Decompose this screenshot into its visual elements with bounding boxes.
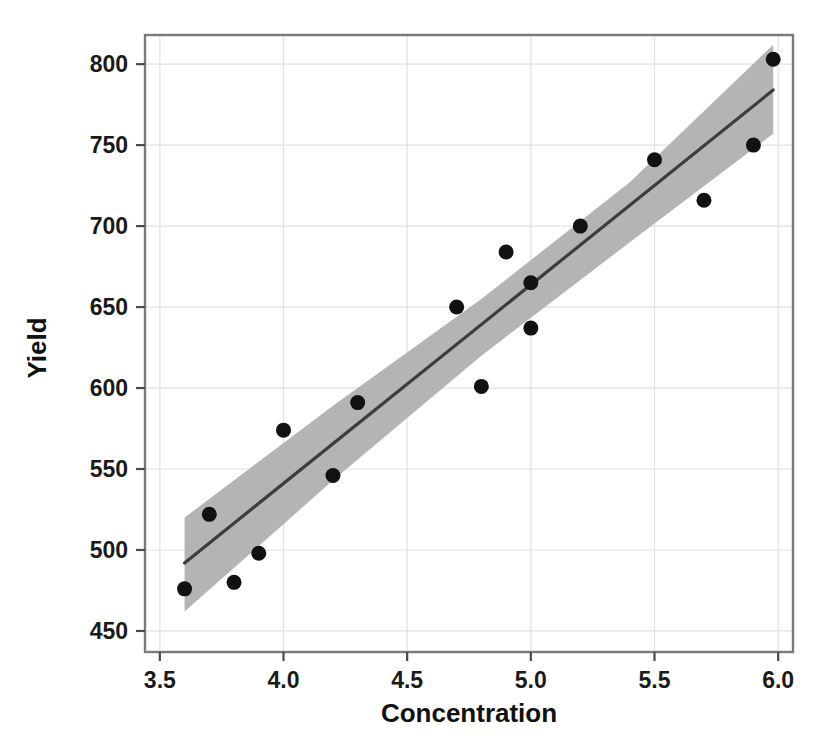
data-point	[696, 193, 711, 208]
y-tick-label: 800	[90, 51, 128, 77]
y-tick-labels: 450500550600650700750800	[90, 51, 128, 644]
data-point	[647, 152, 662, 167]
x-tick-label: 5.5	[639, 667, 671, 693]
y-tick-label: 500	[90, 537, 128, 563]
y-tick-label: 700	[90, 213, 128, 239]
data-point	[276, 423, 291, 438]
x-axis-title: Concentration	[381, 698, 557, 728]
data-point	[523, 321, 538, 336]
data-point	[499, 245, 514, 260]
x-tick-label: 5.0	[515, 667, 547, 693]
y-tick-label: 650	[90, 294, 128, 320]
data-point	[573, 219, 588, 234]
y-tick-label: 600	[90, 375, 128, 401]
y-axis-title: Yield	[22, 317, 52, 378]
data-point	[474, 379, 489, 394]
data-point	[202, 507, 217, 522]
y-tick-label: 750	[90, 132, 128, 158]
data-point	[251, 546, 266, 561]
data-point	[523, 275, 538, 290]
data-point	[325, 468, 340, 483]
chart-figure: 3.54.04.55.05.56.0 450500550600650700750…	[0, 0, 832, 750]
data-point	[350, 395, 365, 410]
y-tick-label: 550	[90, 456, 128, 482]
x-tick-label: 6.0	[762, 667, 794, 693]
y-tick-label: 450	[90, 618, 128, 644]
data-point	[746, 138, 761, 153]
x-tick-label: 4.0	[268, 667, 300, 693]
data-point	[177, 581, 192, 596]
x-tick-label: 4.5	[391, 667, 423, 693]
x-tick-labels: 3.54.04.55.05.56.0	[144, 667, 794, 693]
scatter-plot-svg: 3.54.04.55.05.56.0 450500550600650700750…	[0, 0, 832, 750]
data-point	[227, 575, 242, 590]
data-point	[449, 300, 464, 315]
x-tick-label: 3.5	[144, 667, 176, 693]
y-tick-marks	[136, 64, 145, 631]
data-point	[766, 52, 781, 67]
x-tick-marks	[160, 652, 778, 661]
